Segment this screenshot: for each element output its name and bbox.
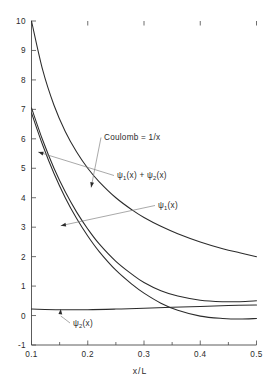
y-tick-label: 6 [21, 135, 26, 144]
annotation-label-psi1: ψ1(x) [158, 201, 178, 211]
y-tick-label: 2 [21, 253, 26, 262]
x-tick-label: 0.4 [194, 350, 207, 359]
y-tick-label: 9 [21, 46, 26, 55]
y-tick-label: 0 [21, 312, 26, 321]
y-tick-label: 3 [21, 223, 26, 232]
annotation-label-psi2: ψ2(x) [73, 319, 93, 329]
annotation-label-coulomb: Coulomb = 1/x [104, 133, 160, 142]
y-tick-label: 8 [21, 76, 26, 85]
y-tick-label: 4 [21, 194, 26, 203]
figure-container: -10123456789100.10.20.30.40.5 Coulomb = … [0, 0, 273, 388]
x-axis-title: x/L [133, 366, 147, 376]
x-tick-label: 0.1 [25, 350, 38, 359]
y-tick-label: 1 [21, 282, 26, 291]
y-tick-label: 7 [21, 105, 26, 114]
x-tick-label: 0.3 [138, 350, 151, 359]
x-tick-label: 0.5 [250, 350, 263, 359]
line-chart: -10123456789100.10.20.30.40.5 Coulomb = … [0, 0, 273, 388]
chart-background [0, 0, 273, 388]
y-tick-label: 10 [16, 17, 26, 26]
x-tick-label: 0.2 [81, 350, 94, 359]
y-tick-label: 5 [21, 164, 26, 173]
